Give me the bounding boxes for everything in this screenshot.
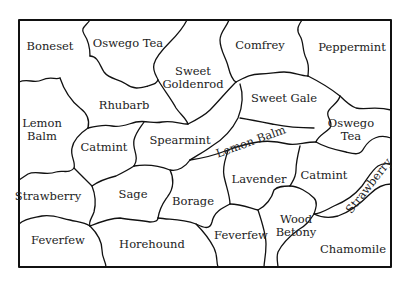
plot-label-line: Catmint (81, 141, 128, 154)
divider-boneset-rhubarb (19, 78, 60, 82)
plot-label-feverfew-right: Feverfew (214, 229, 268, 242)
plot-label-feverfew-left: Feverfew (31, 234, 85, 247)
divider-feverfew-horehound (90, 226, 106, 267)
plot-label-catmint-right: Catmint (301, 169, 348, 182)
plot-label-sweet-goldenrod: SweetGoldenrod (162, 65, 223, 91)
plot-label-line: Chamomile (320, 243, 386, 256)
divider-catmint-spearmint (134, 122, 144, 166)
plot-label-line: Balm (22, 130, 62, 143)
plot-label-line: Borage (172, 195, 214, 208)
plot-label-line: Peppermint (318, 41, 386, 54)
divider-comfrey-peppermint (298, 20, 309, 76)
divider-sage-borage (158, 170, 173, 218)
divider-strawberry-sage (89, 186, 95, 226)
divider-borage-feverfew (158, 204, 230, 228)
plot-label-line: Tea (328, 130, 374, 143)
plot-label-line: Rhubarb (99, 99, 150, 112)
plot-label-line: Sweet Gale (251, 92, 317, 105)
plot-label-borage: Borage (172, 195, 214, 208)
plot-label-oswego-tea-right: OswegoTea (328, 117, 374, 143)
plot-label-line: Lavender (232, 173, 287, 186)
plot-label-sage: Sage (119, 188, 148, 201)
plot-label-line: Catmint (301, 169, 348, 182)
divider-peppermint-oswego (308, 76, 391, 110)
plot-label-lavender: Lavender (232, 173, 287, 186)
plot-label-line: Strawberry (15, 190, 81, 203)
divider-oswego-rhubarb (90, 56, 158, 88)
plot-label-line: Comfrey (235, 39, 285, 52)
divider-rhubarb-spearmint (88, 121, 188, 128)
plot-label-horehound: Horehound (119, 238, 185, 251)
plot-label-comfrey: Comfrey (235, 39, 285, 52)
plot-label-line: Betony (276, 226, 317, 239)
divider-sage-horehound (90, 218, 158, 226)
plot-label-boneset: Boneset (27, 40, 74, 53)
plot-label-catmint-left: Catmint (81, 141, 128, 154)
plot-label-sweet-gale: Sweet Gale (251, 92, 317, 105)
divider-comfrey-sweetgale (236, 72, 308, 82)
plot-label-strawberry-left: Strawberry (15, 190, 81, 203)
plot-label-line: Feverfew (214, 229, 268, 242)
plot-label-line: Feverfew (31, 234, 85, 247)
plot-label-oswego-tea-top: Oswego Tea (93, 37, 163, 50)
plot-label-spearmint: Spearmint (149, 134, 210, 147)
divider-rhubarb-lemonbalm (60, 78, 89, 128)
plot-label-line: Goldenrod (162, 78, 223, 91)
divider-boneset-oswego (83, 20, 90, 56)
plot-label-line: Horehound (119, 238, 185, 251)
divider-strawberry-feverfew (19, 215, 90, 226)
plot-label-line: Spearmint (149, 134, 210, 147)
plot-label-line: Oswego Tea (93, 37, 163, 50)
plot-label-wood-betony: WoodBetony (276, 213, 317, 239)
divider-lavender-catmint (290, 146, 300, 186)
plot-label-lemon-balm-left: LemonBalm (22, 117, 62, 143)
plot-label-rhubarb: Rhubarb (99, 99, 150, 112)
divider-catmint-sage (74, 166, 134, 186)
divider-lavender-woodbetony (230, 186, 290, 210)
divider-spearmint-borage (134, 160, 190, 170)
plot-label-line: Sage (119, 188, 148, 201)
plot-label-peppermint: Peppermint (318, 41, 386, 54)
plot-label-chamomile: Chamomile (320, 243, 386, 256)
plot-label-line: Boneset (27, 40, 74, 53)
